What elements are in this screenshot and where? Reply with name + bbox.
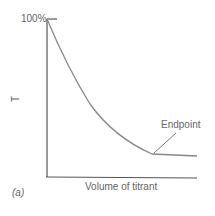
- endpoint-leader-line: [154, 133, 176, 153]
- x-axis: [46, 177, 197, 178]
- y-axis-label: T: [11, 96, 21, 102]
- panel-label: (a): [12, 188, 24, 198]
- x-axis-label: Volume of titrant: [85, 182, 157, 192]
- y-tick-label: 100%: [21, 14, 47, 24]
- titration-curve: [47, 19, 197, 156]
- endpoint-annotation: Endpoint: [161, 120, 200, 130]
